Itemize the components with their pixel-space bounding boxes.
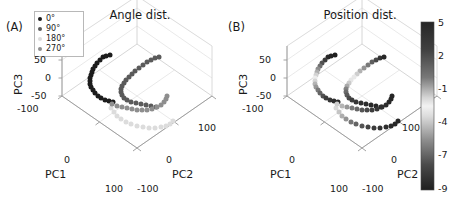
scatter-point xyxy=(111,100,116,105)
scatter-point xyxy=(332,99,337,104)
scatter-point xyxy=(344,117,349,122)
scatter-point xyxy=(90,70,95,75)
scatter-point xyxy=(347,81,352,86)
scatter-point xyxy=(165,94,170,99)
panel-b-title: Position dist. xyxy=(300,8,420,22)
scatter-point xyxy=(159,125,164,130)
scatter-point xyxy=(374,104,379,109)
panel-b-pc2-tick-0: 0 xyxy=(391,154,397,165)
panel-a-pc1-tick-100: 100 xyxy=(105,183,123,194)
scatter-point xyxy=(354,100,359,105)
scatter-point xyxy=(314,85,319,90)
scatter-point xyxy=(164,124,169,129)
panel-b-pc3-axis-label: PC3 xyxy=(237,74,250,95)
scatter-point xyxy=(89,73,94,78)
scatter-point xyxy=(354,122,359,127)
legend-item-180[interactable]: 180° xyxy=(38,34,80,44)
scatter-point xyxy=(159,103,164,108)
scatter-point xyxy=(135,124,140,129)
scatter-point xyxy=(366,125,371,130)
scatter-point xyxy=(337,110,342,115)
panel-b-pc3-tick-neg50: -50 xyxy=(256,90,272,101)
panel-a-label: (A) xyxy=(6,20,23,34)
scatter-point xyxy=(344,90,349,95)
scatter-point xyxy=(122,81,127,86)
scatter-point xyxy=(340,114,345,119)
scatter-point xyxy=(389,97,394,102)
scatter-point xyxy=(384,125,389,130)
scatter-point xyxy=(375,107,380,112)
panel-a-pc2-tick-neg100: -100 xyxy=(137,183,159,194)
panel-b-pc3-tick-50: 50 xyxy=(259,54,271,65)
scatter-point xyxy=(345,105,350,110)
scatter-point xyxy=(108,53,113,58)
scatter-point xyxy=(314,73,319,78)
scatter-point xyxy=(393,122,398,127)
scatter-point xyxy=(144,103,149,108)
scatter-point xyxy=(150,107,155,112)
scatter-point xyxy=(359,101,364,106)
scatter-point xyxy=(119,87,124,92)
scatter-point xyxy=(145,60,150,65)
scatter-point xyxy=(168,122,173,127)
scatter-point xyxy=(318,64,323,69)
legend[interactable]: 0° 90° 180° 270° xyxy=(34,11,84,57)
scatter-point xyxy=(88,79,93,84)
scatter-point xyxy=(372,126,377,131)
scatter-point xyxy=(358,69,363,74)
scatter-point xyxy=(320,61,325,66)
scatter-point xyxy=(365,108,370,113)
legend-item-0[interactable]: 0° xyxy=(38,14,80,24)
legend-item-270[interactable]: 270° xyxy=(38,44,80,54)
scatter-point xyxy=(147,126,152,131)
scatter-point xyxy=(171,119,176,124)
scatter-point xyxy=(96,94,101,99)
scatter-point xyxy=(107,99,112,104)
colorbar-tick-neg1: -1 xyxy=(438,83,447,94)
scatter-point xyxy=(141,63,146,68)
panel-b-pc2-axis-label: PC2 xyxy=(397,168,418,181)
scatter-point xyxy=(93,91,98,96)
scatter-point xyxy=(347,96,352,101)
panel-b-scatter-points xyxy=(313,53,401,131)
scatter-point xyxy=(370,60,375,65)
scatter-point xyxy=(129,100,134,105)
figure-canvas: (A) Angle dist. 0° 90° 180° 270° PC3 PC1… xyxy=(0,0,463,217)
scatter-point xyxy=(318,91,323,96)
scatter-point xyxy=(396,119,401,124)
scatter-point xyxy=(127,75,132,80)
panel-b-pc2-tick-neg100: -100 xyxy=(362,183,384,194)
scatter-point xyxy=(119,117,124,122)
colorbar-tick-neg7: -7 xyxy=(438,149,447,160)
scatter-point xyxy=(349,78,354,83)
scatter-point xyxy=(378,56,383,61)
scatter-point xyxy=(336,100,341,105)
panel-a-pc1-axis-label: PC1 xyxy=(45,168,66,181)
colorbar-tick-5: 5 xyxy=(438,17,444,28)
legend-swatch-icon xyxy=(38,27,42,31)
scatter-point xyxy=(370,108,375,113)
scatter-point xyxy=(360,124,365,129)
panel-b-label: (B) xyxy=(228,20,245,34)
colorbar-gradient xyxy=(421,22,434,190)
legend-label: 180° xyxy=(46,34,65,44)
scatter-point xyxy=(162,100,167,105)
scatter-point xyxy=(164,97,169,102)
panel-a-title: Angle dist. xyxy=(85,8,195,22)
scatter-point xyxy=(101,55,106,60)
scatter-point xyxy=(133,69,138,74)
panel-a-pc3-tick-50: 50 xyxy=(34,54,46,65)
scatter-point xyxy=(88,76,93,81)
scatter-point xyxy=(120,105,125,110)
scatter-point xyxy=(321,94,326,99)
scatter-point xyxy=(328,98,333,103)
scatter-point xyxy=(355,107,360,112)
scatter-point xyxy=(134,101,139,106)
scatter-point xyxy=(389,124,394,129)
panel-b-pc1-axis-label: PC1 xyxy=(270,168,291,181)
legend-item-90[interactable]: 90° xyxy=(38,24,80,34)
scatter-point xyxy=(349,120,354,125)
scatter-point xyxy=(112,110,117,115)
scatter-point xyxy=(141,125,146,130)
panel-a-pc3-tick-0: 0 xyxy=(45,72,51,83)
